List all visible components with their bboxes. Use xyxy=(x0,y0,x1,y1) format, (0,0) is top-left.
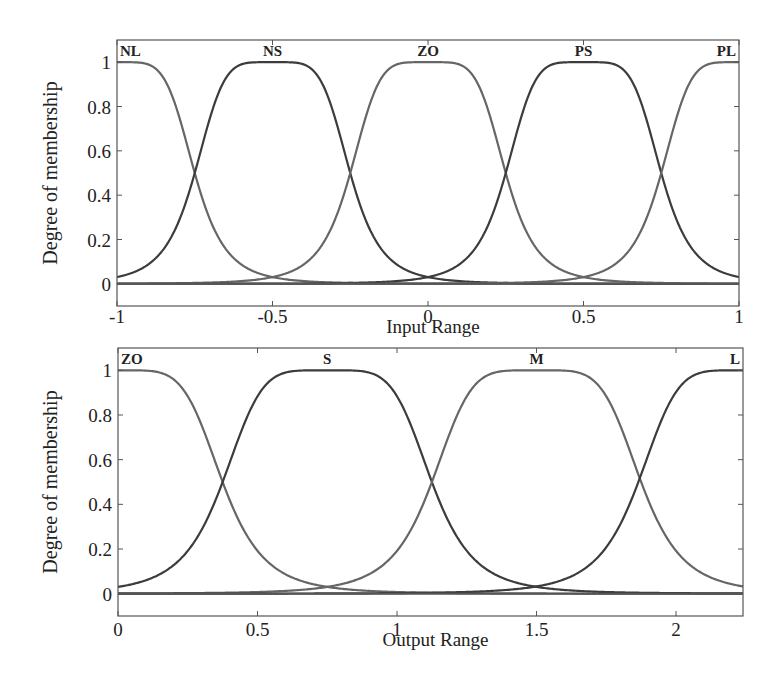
y-tick-label: 0.8 xyxy=(88,405,112,426)
plot-frame xyxy=(118,348,743,616)
y-tick-label: 0 xyxy=(103,584,113,605)
x-axis-label: Output Range xyxy=(382,629,488,650)
membership-curve-m xyxy=(118,370,743,593)
x-tick-label: 0 xyxy=(113,619,123,640)
y-tick-label: 1 xyxy=(103,360,113,381)
x-tick-label: 0.5 xyxy=(246,619,270,640)
y-tick-label: 0.2 xyxy=(88,539,112,560)
membership-curve-l xyxy=(118,370,743,593)
y-tick-label: 0.6 xyxy=(88,450,112,471)
y-axis-label: Degree of membership xyxy=(39,390,62,573)
output-chart-svg: 00.511.5200.20.40.60.81ZOSMLOutput Range… xyxy=(0,0,778,689)
set-label-m: M xyxy=(529,351,543,367)
x-tick-label: 2 xyxy=(671,619,681,640)
output-membership-chart: 00.511.5200.20.40.60.81ZOSMLOutput Range… xyxy=(0,0,778,689)
set-label-s: S xyxy=(323,351,331,367)
x-tick-label: 1.5 xyxy=(525,619,549,640)
set-label-l: L xyxy=(730,351,740,367)
set-label-zo: ZO xyxy=(121,351,143,367)
membership-curve-s xyxy=(118,370,743,593)
y-tick-label: 0.4 xyxy=(88,494,112,515)
membership-curve-zo xyxy=(118,370,743,593)
